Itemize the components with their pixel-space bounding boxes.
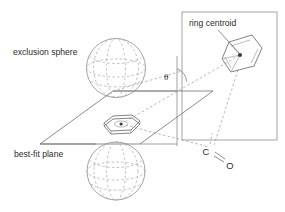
dashed-centroid-to-carbon [121,124,209,147]
dashed-plane-to-box [113,71,182,91]
sphere-latitude-c-lower [91,184,141,190]
diagram-svg: C O exclusion sphere best-fit plane ring… [0,0,285,212]
sphere-longitude-b-upper [94,39,139,98]
dashed-carbon-stub [210,133,212,144]
dashed-ring-to-carbon [214,70,238,145]
sphere-longitude-a-upper [107,39,126,98]
benzene-spoke-2 [222,55,240,59]
planar-ring-centroid-dot [120,123,123,126]
ring-centroid-label: ring centroid [189,18,237,28]
sphere-latitude-b-upper [90,57,143,64]
figure-canvas: C O exclusion sphere best-fit plane ring… [0,0,285,212]
sphere-outline-upper [87,39,146,98]
sphere-longitude-a-lower [107,142,126,200]
benzene-centroid-dot [238,53,242,57]
exclusion-sphere-lower [87,142,145,200]
theta-label: θ [164,72,169,82]
oxygen-label: O [226,160,233,171]
dashed-centroid-to-ring [121,55,240,124]
ring-detail-box [182,12,277,140]
carbon-label: C [203,146,210,157]
ring-centroid-leader [218,30,239,53]
sphere-latitude-a-lower [87,162,145,180]
planar-ring [104,115,140,134]
benzene-spoke-3 [231,55,240,72]
benzene-double-bond-3 [225,57,231,68]
exclusion-sphere-upper [87,39,146,98]
sphere-longitude-b-lower [94,142,138,200]
exclusion-sphere-label: exclusion sphere [13,47,78,57]
benzene-double-bond-2 [251,49,258,63]
carbonyl-group: C O [203,146,234,171]
best-fit-plane-label: best-fit plane [14,149,63,159]
sphere-outline-lower [87,142,145,200]
best-fit-plane [40,91,213,144]
sphere-latitude-a-upper [87,59,146,77]
